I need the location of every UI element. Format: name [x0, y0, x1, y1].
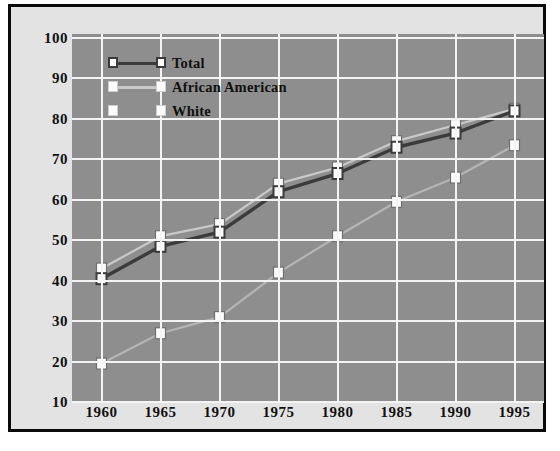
chart-frame: 102030405060708090100 196019651970197519…: [8, 4, 546, 432]
y-axis: 102030405060708090100: [11, 34, 68, 402]
gridline-vertical: [514, 34, 516, 402]
y-tick-label: 30: [16, 314, 68, 329]
x-axis: 19601965197019751980198519901995: [72, 405, 544, 431]
legend-symbol-african-american: [106, 77, 172, 97]
gridline-vertical: [337, 34, 339, 402]
y-tick-label: 50: [16, 233, 68, 248]
gridline-vertical: [396, 34, 398, 402]
legend-item-total: Total: [106, 51, 316, 75]
legend-marker-total-left: [108, 57, 118, 68]
legend-item-african-american: African American: [106, 75, 316, 99]
legend-marker-african-american-right: [156, 81, 166, 92]
x-tick-label: 1980: [308, 405, 368, 420]
x-tick-label: 1975: [249, 405, 309, 420]
x-tick-label: 1960: [72, 405, 132, 420]
chart-legend: Total African American White: [106, 51, 316, 123]
chart-figure: 102030405060708090100 196019651970197519…: [0, 0, 560, 451]
y-tick-label: 100: [16, 31, 68, 46]
gridline-horizontal: [72, 239, 544, 241]
y-tick-label: 90: [16, 71, 68, 86]
gridline-horizontal: [72, 401, 544, 403]
y-tick-label: 70: [16, 152, 68, 167]
legend-symbol-total: [106, 53, 172, 73]
gridline-horizontal: [72, 158, 544, 160]
gridline-vertical: [101, 34, 103, 402]
gridline-vertical: [455, 34, 457, 402]
y-tick-label: 60: [16, 192, 68, 207]
legend-item-white: White: [106, 99, 316, 123]
legend-marker-white-right: [156, 105, 166, 116]
gridline-horizontal: [72, 37, 544, 39]
legend-marker-white-left: [108, 105, 118, 116]
legend-label-white: White: [172, 103, 211, 120]
gridline-horizontal: [72, 199, 544, 201]
legend-label-african-american: African American: [172, 79, 287, 96]
x-tick-label: 1985: [367, 405, 427, 420]
gridline-horizontal: [72, 361, 544, 363]
gridline-horizontal: [72, 280, 544, 282]
gridline-horizontal: [72, 320, 544, 322]
x-tick-label: 1995: [485, 405, 545, 420]
x-tick-label: 1965: [131, 405, 191, 420]
legend-symbol-white: [106, 101, 172, 121]
x-tick-label: 1970: [190, 405, 250, 420]
legend-marker-african-american-left: [108, 81, 118, 92]
y-tick-label: 20: [16, 354, 68, 369]
x-tick-label: 1990: [426, 405, 486, 420]
legend-marker-total-right: [156, 57, 166, 68]
y-tick-label: 40: [16, 273, 68, 288]
legend-label-total: Total: [172, 55, 205, 72]
y-tick-label: 80: [16, 111, 68, 126]
y-tick-label: 10: [16, 395, 68, 410]
